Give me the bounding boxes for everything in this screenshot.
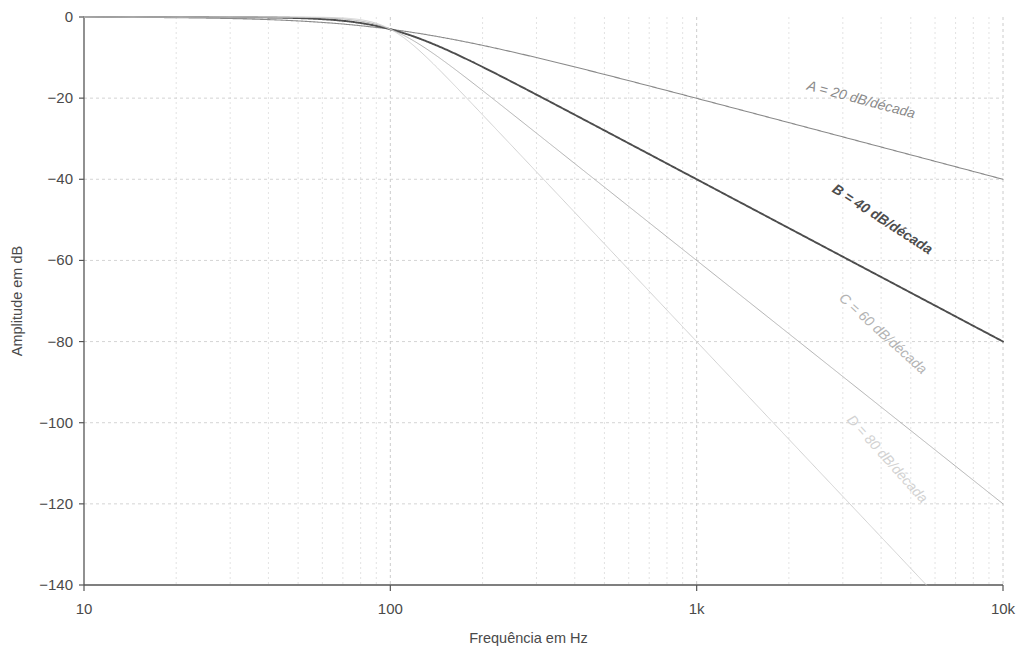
bode-plot-svg: 0−20−40−60−80−100−120−140 101001k10k A =… [0,0,1023,659]
y-tick-label: −100 [39,414,73,431]
curve-label-c: C = 60 dB/década [836,290,930,377]
y-axis-title: Amplitude em dB [9,246,25,356]
y-tick-label: −40 [48,170,73,187]
bode-plot-figure: 0−20−40−60−80−100−120−140 101001k10k A =… [0,0,1023,659]
x-axis-ticks: 101001k10k [76,585,1016,617]
y-axis-ticks: 0−20−40−60−80−100−120−140 [39,8,84,593]
y-tick-label: −60 [48,251,73,268]
y-tick-label: −20 [48,89,73,106]
x-axis-title: Frequência em Hz [469,630,587,646]
curve-inline-labels: A = 20 dB/décadaB = 40 dB/décadaC = 60 d… [805,77,936,506]
curve-label-d: D = 80 dB/década [844,412,931,506]
x-tick-label: 100 [378,600,403,617]
curve-label-b: B = 40 dB/década [830,180,936,257]
y-tick-label: −120 [39,495,73,512]
y-tick-label: −80 [48,333,73,350]
x-tick-label: 10k [991,600,1016,617]
x-tick-label: 1k [689,600,705,617]
y-tick-label: 0 [65,8,73,25]
curve-label-a: A = 20 dB/década [805,77,918,122]
x-tick-label: 10 [76,600,93,617]
y-tick-label: −140 [39,576,73,593]
curve-d [84,17,926,585]
